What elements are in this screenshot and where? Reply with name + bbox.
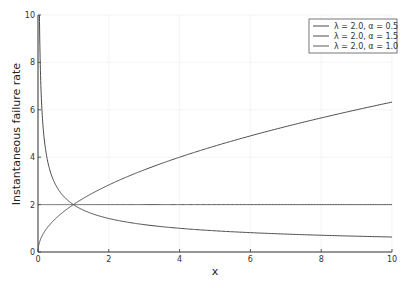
y-axis-label: Instantaneous failure rate	[10, 63, 23, 206]
x-tick-label: 2	[106, 255, 111, 264]
legend: λ = 2.0, α = 0.5 λ = 2.0, α = 1.5 λ = 2.…	[309, 19, 398, 53]
x-tick-label: 6	[248, 255, 253, 264]
chart: 02468100246810 x Instantaneous failure r…	[0, 0, 407, 288]
x-tick-label: 10	[387, 255, 397, 264]
y-tick-label: 0	[30, 248, 35, 257]
series-line-1	[38, 102, 392, 252]
legend-label-2: λ = 2.0, α = 1.0	[334, 42, 398, 51]
y-tick-label: 4	[30, 153, 35, 162]
y-tick-label: 8	[30, 58, 35, 67]
y-tick-label: 6	[30, 106, 35, 115]
legend-label-1: λ = 2.0, α = 1.5	[334, 32, 398, 41]
x-tick-label: 4	[177, 255, 182, 264]
y-tick-label: 2	[30, 201, 35, 210]
x-axis-label: x	[212, 265, 219, 278]
x-tick-label: 0	[35, 255, 40, 264]
legend-label-0: λ = 2.0, α = 0.5	[334, 22, 398, 31]
y-tick-label: 10	[25, 11, 35, 20]
x-tick-label: 8	[319, 255, 324, 264]
